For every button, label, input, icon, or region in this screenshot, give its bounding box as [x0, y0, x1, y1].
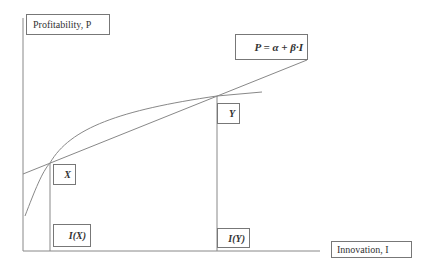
tick-y-label: I(Y) — [217, 228, 250, 248]
point-y-label: Y — [217, 103, 240, 124]
tick-x-label: I(X) — [53, 224, 91, 247]
x-axis-label: Innovation, I — [331, 241, 412, 258]
linear-regression-line — [23, 60, 307, 174]
equation-label: P = α + β·I — [235, 34, 308, 60]
point-x-label: X — [53, 164, 76, 185]
y-axis-label: Profitability, P — [26, 14, 110, 35]
